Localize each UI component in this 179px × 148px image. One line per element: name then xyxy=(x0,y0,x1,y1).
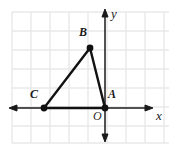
origin-label: O xyxy=(93,110,102,122)
coordinate-plane-figure: A B C O x y xyxy=(0,0,179,148)
x-axis-right-arrow xyxy=(145,105,153,111)
point-c-dot xyxy=(41,105,48,112)
x-axis-left-arrow xyxy=(9,105,17,111)
point-a-label: A xyxy=(108,88,116,100)
point-b-dot xyxy=(87,45,94,52)
point-c-label: C xyxy=(30,88,38,100)
x-axis-label: x xyxy=(156,110,162,122)
grid-lines xyxy=(12,12,169,143)
figure-canvas xyxy=(0,0,179,148)
point-a-dot xyxy=(102,105,109,112)
y-axis-label: y xyxy=(111,8,117,20)
point-b-label: B xyxy=(79,26,87,38)
triangle-abc xyxy=(44,48,105,108)
